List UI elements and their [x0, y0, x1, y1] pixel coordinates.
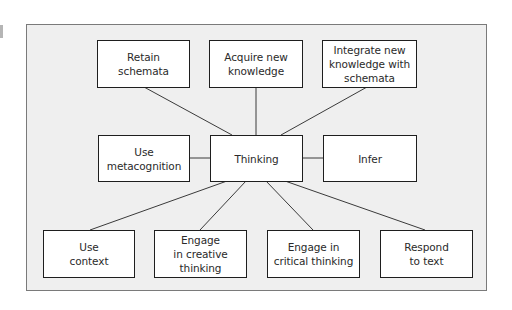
node-respond-to-text: Respond to text — [380, 230, 473, 278]
node-integrate-new-knowledge: Integrate new knowledge with schemata — [322, 40, 417, 88]
node-label: Use context — [70, 240, 109, 268]
node-label: Engage in critical thinking — [274, 240, 353, 268]
node-label: Use metacognition — [107, 145, 182, 173]
side-tab-marker — [0, 25, 3, 38]
node-label: Acquire new knowledge — [224, 50, 288, 78]
node-infer: Infer — [323, 135, 417, 182]
node-acquire-new-knowledge: Acquire new knowledge — [209, 40, 303, 88]
node-engage-critical-thinking: Engage in critical thinking — [267, 230, 360, 278]
node-label: Respond to text — [404, 240, 448, 268]
node-label: Infer — [358, 152, 382, 166]
node-label: Engage in creative thinking — [173, 233, 227, 275]
node-label: Retain schemata — [118, 50, 169, 78]
node-use-context: Use context — [43, 230, 135, 278]
node-thinking-center: Thinking — [210, 135, 303, 182]
node-use-metacognition: Use metacognition — [98, 135, 190, 182]
node-label: Integrate new knowledge with schemata — [329, 43, 410, 85]
node-label: Thinking — [234, 152, 278, 166]
node-engage-creative-thinking: Engage in creative thinking — [154, 230, 247, 278]
node-retain-schemata: Retain schemata — [97, 40, 190, 88]
